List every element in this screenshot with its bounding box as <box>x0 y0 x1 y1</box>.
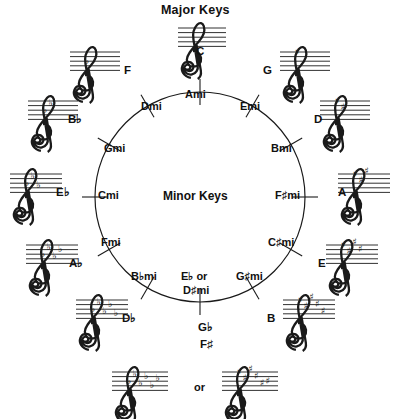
minor-key-bmi[interactable]: Bmi <box>271 143 292 154</box>
major-key-bb[interactable]: B♭ <box>68 114 82 126</box>
flat-accidental-2: ♭ <box>132 368 136 379</box>
sharp-accidental-1: ♯ <box>335 95 340 106</box>
sharp-accidental-1: ♯ <box>341 239 346 250</box>
minor-key-gmi[interactable]: Gmi <box>104 143 125 154</box>
key-signature-staff-eb: ♭♭♭ <box>10 169 62 225</box>
flat-accidental-1: ♭ <box>127 375 131 386</box>
major-key-g[interactable]: G <box>263 65 272 77</box>
sharp-accidental-2: ♯ <box>346 245 351 256</box>
major-key-b[interactable]: B <box>267 313 275 325</box>
sharp-accidental-1: ♯ <box>298 294 303 305</box>
flat-accidental-1: ♭ <box>85 55 89 66</box>
minor-keys-title: Minor Keys <box>163 190 228 202</box>
sharp-accidental-2: ♯ <box>242 372 247 383</box>
flat-accidental-2: ♭ <box>46 241 50 252</box>
minor-key-ami[interactable]: Ami <box>185 89 206 100</box>
flat-accidental-5: ♭ <box>114 307 118 318</box>
sharp-accidental-4: ♯ <box>358 243 363 254</box>
sharp-accidental-3: ♯ <box>309 291 314 302</box>
minor-key-ebmi[interactable]: E♭ or <box>181 271 207 282</box>
flat-accidental-3: ♭ <box>52 250 56 261</box>
minor-key-bbmi[interactable]: B♭mi <box>131 271 157 282</box>
major-key-eb[interactable]: E♭ <box>56 187 70 199</box>
key-signature-staff-b: ♯♯♯♯♯ <box>283 291 335 351</box>
sharp-accidental-1: ♯ <box>353 168 358 179</box>
sharp-accidental-3: ♯ <box>352 236 357 247</box>
major-key-c[interactable]: C <box>196 46 204 58</box>
minor-key-cmi[interactable]: Cmi <box>98 190 119 201</box>
major-keys-title: Major Keys <box>161 4 230 17</box>
key-signature-staff-db: ♭♭♭♭♭ <box>76 295 128 351</box>
flat-accidental-6: ♭ <box>155 372 159 383</box>
major-key-d[interactable]: D <box>314 114 322 126</box>
sharp-accidental-1: ♯ <box>237 366 242 377</box>
major-key-f[interactable]: F <box>124 65 131 77</box>
flat-accidental-2: ♭ <box>96 296 100 307</box>
enharmonic-or-label: or <box>194 382 205 393</box>
flat-accidental-3: ♭ <box>102 305 106 316</box>
flat-accidental-3: ♭ <box>138 377 142 388</box>
key-signature-staff-gb-bottom: ♭♭♭♭♭♭ <box>112 367 168 419</box>
flat-accidental-2: ♭ <box>48 97 52 108</box>
minor-key-gsmi[interactable]: G♯mi <box>236 271 263 282</box>
minor-key-dsmi[interactable]: D♯mi <box>183 285 209 296</box>
major-key-a[interactable]: A <box>338 187 346 199</box>
flat-accidental-1: ♭ <box>91 303 95 314</box>
sharp-accidental-4: ♯ <box>254 370 259 381</box>
key-signature-staff-d: ♯♯ <box>320 95 370 152</box>
major-key-db[interactable]: D♭ <box>122 313 136 325</box>
key-signature-staff-fsharp-bottom: ♯♯♯♯♯♯ <box>222 363 278 419</box>
sharp-accidental-3: ♯ <box>248 363 253 374</box>
key-signature-staff-f: ♭ <box>70 47 120 103</box>
flat-accidental-2: ♭ <box>30 170 34 181</box>
sharp-accidental-5: ♯ <box>321 305 326 316</box>
flat-accidental-1: ♭ <box>41 248 45 259</box>
sharp-accidental-6: ♯ <box>265 375 270 386</box>
major-key-gb[interactable]: G♭ <box>198 322 213 334</box>
staff-notation-layer: ♯♯♯♯♯♯♯♯♯♯♯♯♯♯♯♭♭♭♭♭♭♭♭♭♭♭♭♭♭♭♭♭♭♭♭♭♯♯♯♯… <box>0 0 402 419</box>
minor-key-dmi[interactable]: Dmi <box>141 101 162 112</box>
major-key-ab[interactable]: A♭ <box>69 258 83 270</box>
major-key-e[interactable]: E <box>318 258 326 270</box>
sharp-accidental-2: ♯ <box>303 300 308 311</box>
minor-key-fmi[interactable]: Fmi <box>101 237 121 248</box>
sharp-accidental-4: ♯ <box>315 298 320 309</box>
flat-accidental-4: ♭ <box>58 243 62 254</box>
flat-accidental-1: ♭ <box>43 104 47 115</box>
sharp-accidental-1: ♯ <box>295 46 300 57</box>
major-key-fsharp[interactable]: F♯ <box>200 339 213 351</box>
minor-key-csmi[interactable]: C♯mi <box>268 237 294 248</box>
key-signature-staff-g: ♯ <box>280 46 330 103</box>
sharp-accidental-2: ♯ <box>358 174 363 185</box>
flat-accidental-4: ♭ <box>144 370 148 381</box>
key-signature-staff-e: ♯♯♯♯ <box>326 236 378 296</box>
minor-key-emi[interactable]: Emi <box>240 101 260 112</box>
flat-accidental-5: ♭ <box>150 379 154 390</box>
flat-accidental-4: ♭ <box>108 298 112 309</box>
sharp-accidental-5: ♯ <box>260 377 265 388</box>
circle-of-fifths-diagram: ♯♯♯♯♯♯♯♯♯♯♯♯♯♯♯♭♭♭♭♭♭♭♭♭♭♭♭♭♭♭♭♭♭♭♭♭♯♯♯♯… <box>0 0 402 419</box>
sharp-accidental-2: ♯ <box>340 101 345 112</box>
sharp-accidental-3: ♯ <box>364 165 369 176</box>
minor-key-fsmi[interactable]: F♯mi <box>275 190 300 201</box>
flat-accidental-1: ♭ <box>25 177 29 188</box>
flat-accidental-3: ♭ <box>36 179 40 190</box>
